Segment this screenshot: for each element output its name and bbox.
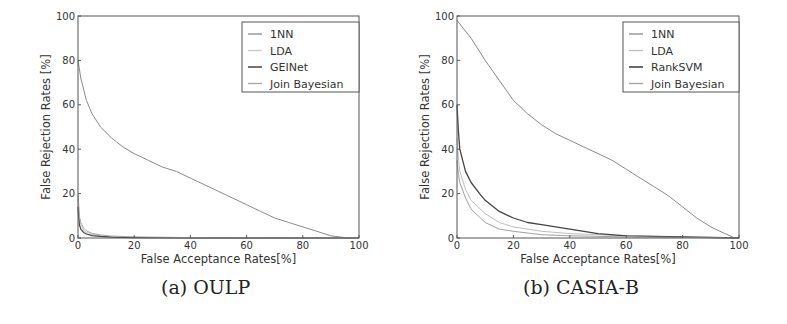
x-tick-label: 60 xyxy=(240,240,253,251)
x-axis-label: False Acceptance Rates[%] xyxy=(141,252,296,266)
legend-label: 1NN xyxy=(651,28,674,41)
legend-label: RankSVM xyxy=(651,61,702,74)
y-tick-label: 80 xyxy=(62,55,75,66)
y-tick-label: 40 xyxy=(441,144,454,155)
y-tick-label: 60 xyxy=(62,99,75,110)
caption-casia-b: (b) CASIA-B xyxy=(523,276,639,298)
legend-label: GEINet xyxy=(270,61,309,74)
x-tick-label: 40 xyxy=(184,240,197,251)
y-tick-label: 40 xyxy=(62,144,75,155)
x-tick-label: 0 xyxy=(454,240,460,251)
chart-panel-oulp: 020406080100020406080100False Acceptance… xyxy=(0,0,390,324)
y-tick-label: 100 xyxy=(56,11,75,22)
x-tick-label: 20 xyxy=(507,240,520,251)
y-tick-label: 60 xyxy=(441,99,454,110)
legend-label: LDA xyxy=(651,45,673,58)
x-tick-label: 60 xyxy=(620,240,633,251)
y-tick-label: 0 xyxy=(448,233,454,244)
chart-panel-casia-b: 020406080100020406080100False Acceptance… xyxy=(390,0,787,324)
legend-label: 1NN xyxy=(270,28,293,41)
x-tick-label: 0 xyxy=(75,240,81,251)
x-tick-label: 20 xyxy=(128,240,141,251)
y-axis-label: False Rejection Rates [%] xyxy=(418,54,432,199)
x-tick-label: 40 xyxy=(563,240,576,251)
y-tick-label: 80 xyxy=(441,55,454,66)
y-tick-label: 20 xyxy=(441,188,454,199)
x-tick-label: 100 xyxy=(349,240,368,251)
x-tick-label: 100 xyxy=(729,240,748,251)
series-line-geinet xyxy=(78,207,359,238)
legend: 1NNLDAGEINetJoin Bayesian xyxy=(242,22,359,92)
y-tick-label: 100 xyxy=(435,11,454,22)
legend-label: LDA xyxy=(270,45,292,58)
x-tick-label: 80 xyxy=(676,240,689,251)
series-line-lda xyxy=(78,198,359,238)
y-tick-label: 0 xyxy=(69,233,75,244)
y-tick-label: 20 xyxy=(62,188,75,199)
legend: 1NNLDARankSVMJoin Bayesian xyxy=(623,22,739,92)
x-axis-label: False Acceptance Rates[%] xyxy=(520,252,675,266)
x-tick-label: 80 xyxy=(296,240,309,251)
caption-oulp: (a) OULP xyxy=(161,276,250,298)
legend-label: Join Bayesian xyxy=(269,78,344,91)
y-axis-label: False Rejection Rates [%] xyxy=(39,54,53,199)
legend-label: Join Bayesian xyxy=(650,78,725,91)
series-line-join-bayesian xyxy=(457,160,739,238)
